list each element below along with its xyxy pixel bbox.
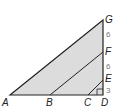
triangle-agd xyxy=(10,20,103,95)
length-fg: 6 xyxy=(106,30,111,39)
label-d: D xyxy=(101,97,108,108)
label-a: A xyxy=(1,97,9,108)
length-de: 3 xyxy=(106,86,111,95)
triangle-diagram: A B C D E F G 3 6 6 xyxy=(0,0,115,108)
label-g: G xyxy=(105,14,113,25)
label-f: F xyxy=(105,46,112,57)
label-e: E xyxy=(105,73,112,84)
label-b: B xyxy=(46,97,53,108)
label-c: C xyxy=(84,97,92,108)
length-ef: 6 xyxy=(106,62,111,71)
